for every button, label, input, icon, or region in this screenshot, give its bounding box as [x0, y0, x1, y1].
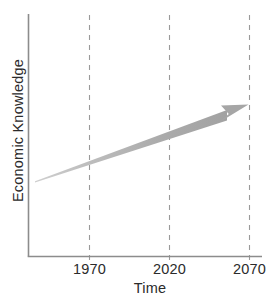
x-tick-label-1970: 1970: [73, 261, 106, 277]
chart-figure: 1970 2020 2070 Time Economic Knowledge: [0, 0, 272, 301]
chart-canvas: [0, 0, 272, 301]
y-axis-title: Economic Knowledge: [10, 59, 26, 202]
x-tick-label-2070: 2070: [233, 261, 266, 277]
x-axis-title: Time: [134, 280, 166, 296]
x-tick-label-2020: 2020: [153, 261, 186, 277]
